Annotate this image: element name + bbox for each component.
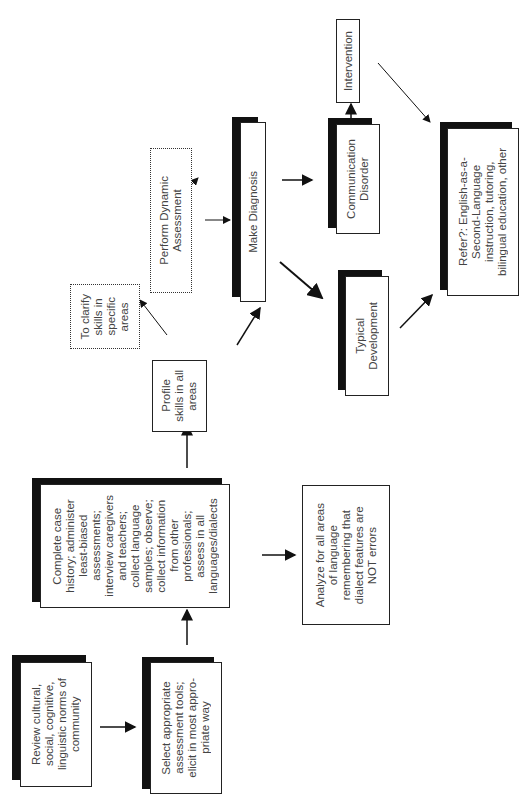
arrow-typical-to-refer xyxy=(400,295,432,328)
node-label: Select appropriate assessment tools; eli… xyxy=(160,678,212,778)
node-label: Profile skills in all areas xyxy=(160,370,199,422)
node-label: Perform Dynamic Assessment xyxy=(158,176,184,265)
arrow-intervention-to-refer xyxy=(378,63,430,122)
node-label: Refer?: English-as-a- Second-Language in… xyxy=(457,148,509,276)
arrow-profile-to-diagnosis xyxy=(237,308,260,345)
node-label: Analyze for all areas of language rememb… xyxy=(314,503,379,607)
node-label: Review cultural, social, cognitive, ling… xyxy=(30,678,82,770)
arrow-diagnosis-to-typical xyxy=(280,262,322,298)
node-label: To clarify skills in specific areas xyxy=(79,294,131,339)
node-label: Communication Disorder xyxy=(345,139,371,219)
node-label: Complete case history; administer least-… xyxy=(51,495,220,597)
node-label: Intervention xyxy=(342,31,355,91)
node-label: Make Diagnosis xyxy=(247,171,260,253)
arrow-profile-to-clarify xyxy=(140,300,167,335)
node-label: Typical Development xyxy=(354,302,380,370)
